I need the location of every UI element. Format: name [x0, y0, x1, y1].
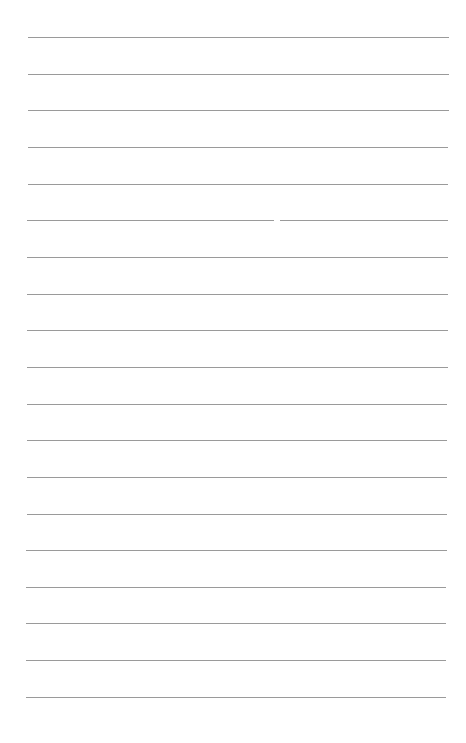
ruled-line: [27, 294, 448, 295]
ruled-line: [27, 220, 448, 221]
ruled-line: [28, 110, 449, 111]
ruled-line: [26, 623, 446, 624]
lined-paper-page: [0, 0, 466, 743]
ruled-line: [26, 587, 446, 588]
ruled-line: [27, 257, 448, 258]
ruled-line: [26, 660, 446, 661]
ruled-line: [27, 514, 447, 515]
ruled-line: [28, 74, 449, 75]
ruled-line: [28, 184, 449, 185]
ruled-line: [27, 477, 447, 478]
ruled-line: [27, 330, 448, 331]
ruled-line: [27, 367, 448, 368]
ruled-line: [26, 697, 446, 698]
ruled-line: [27, 440, 447, 441]
ruled-line: [26, 550, 446, 551]
ruled-line: [27, 404, 447, 405]
ruled-line: [28, 147, 449, 148]
line-break-mark: [274, 219, 280, 222]
ruled-line: [28, 37, 449, 38]
